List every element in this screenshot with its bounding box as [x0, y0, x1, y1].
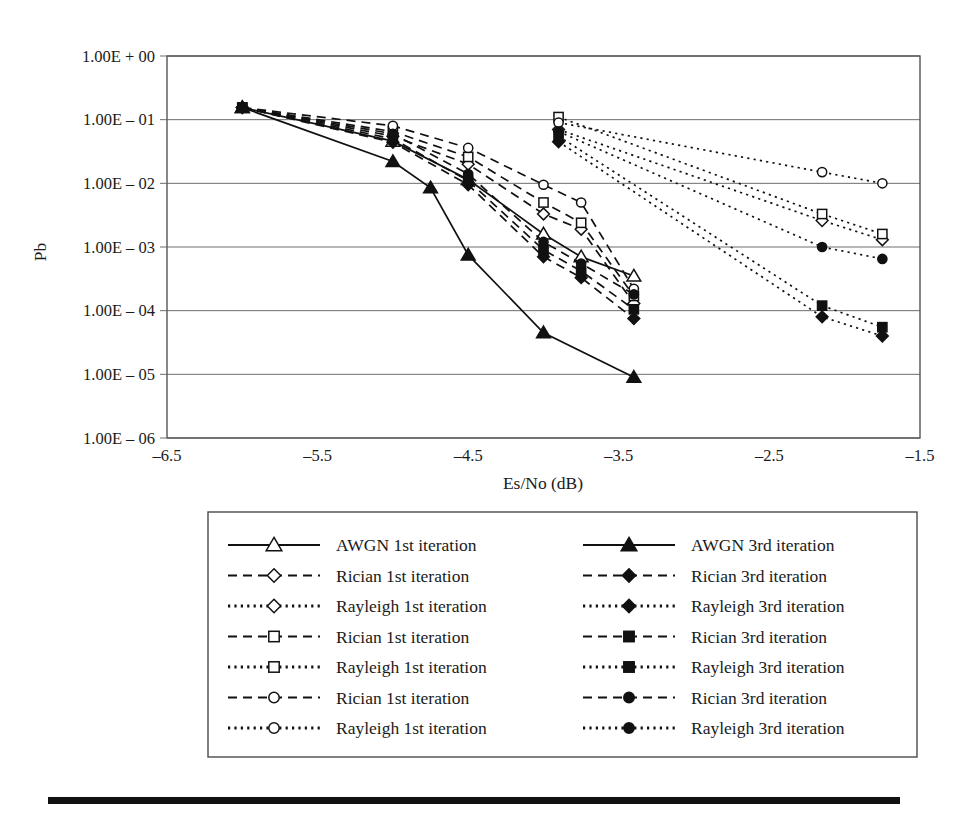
data-series: [235, 101, 640, 281]
legend-label: AWGN 3rd iteration: [691, 535, 835, 555]
legend-label: Rician 1st iteration: [336, 566, 469, 586]
x-tick-label: –3.5: [603, 446, 633, 465]
legend-label: Rician 3rd iteration: [691, 688, 827, 708]
circle-marker: [269, 723, 279, 733]
data-series-layer: [235, 101, 888, 382]
series-line: [242, 108, 634, 276]
square-marker: [629, 305, 638, 314]
square-marker: [624, 631, 634, 641]
y-tick-label: 1.00E – 03: [83, 238, 155, 257]
legend-label: Rayleigh 3rd iteration: [691, 596, 845, 616]
square-marker: [464, 152, 473, 161]
triangle-marker: [461, 248, 475, 260]
circle-marker: [818, 242, 827, 251]
circle-marker: [624, 723, 634, 733]
y-axis-label: Pb: [30, 243, 50, 262]
circle-marker: [554, 118, 563, 127]
series-line: [242, 108, 634, 378]
circle-marker: [629, 290, 638, 299]
circle-marker: [269, 692, 279, 702]
circle-marker: [388, 129, 397, 138]
y-tick-label: 1.00E – 06: [83, 429, 155, 448]
square-marker: [878, 323, 887, 332]
x-tick-label: –4.5: [453, 446, 483, 465]
data-series: [238, 103, 639, 314]
legend-label: Rayleigh 1st iteration: [336, 657, 487, 677]
square-marker: [577, 218, 586, 227]
legend-label: Rayleigh 3rd iteration: [691, 657, 845, 677]
legend-label: Rician 3rd iteration: [691, 627, 827, 647]
x-tick-label: –2.5: [754, 446, 784, 465]
x-tick-label: –1.5: [905, 446, 935, 465]
diamond-marker: [816, 311, 828, 323]
data-series: [235, 101, 640, 382]
series-line: [559, 117, 883, 234]
square-marker: [818, 209, 827, 218]
series-line: [559, 142, 883, 336]
legend-label: Rician 3rd iteration: [691, 566, 827, 586]
circle-marker: [878, 179, 887, 188]
figure-root: 1.00E + 001.00E – 011.00E – 021.00E – 03…: [0, 0, 953, 813]
circle-marker: [577, 198, 586, 207]
y-tick-label: 1.00E – 01: [83, 110, 155, 129]
circle-marker: [878, 254, 887, 263]
square-marker: [878, 229, 887, 238]
x-tick-label: –5.5: [302, 446, 332, 465]
bottom-rule: [48, 797, 900, 804]
square-marker: [539, 198, 548, 207]
circle-marker: [624, 692, 634, 702]
circle-marker: [554, 127, 563, 136]
legend-label: Rician 1st iteration: [336, 688, 469, 708]
y-tick-label: 1.00E – 04: [83, 301, 155, 320]
legend-label: Rayleigh 1st iteration: [336, 718, 487, 738]
x-axis-tick-labels: –6.5–5.5–4.5–3.5–2.5–1.5: [152, 446, 935, 465]
circle-marker: [539, 237, 548, 246]
y-tick-label: 1.00E + 00: [82, 47, 155, 66]
square-marker: [269, 662, 279, 672]
series-line: [559, 130, 883, 240]
circle-marker: [464, 169, 473, 178]
square-marker: [269, 631, 279, 641]
triangle-marker: [627, 371, 641, 383]
circle-marker: [539, 180, 548, 189]
diamond-marker: [538, 208, 550, 220]
triangle-marker: [627, 269, 641, 281]
y-tick-label: 1.00E – 05: [83, 365, 155, 384]
square-marker: [624, 662, 634, 672]
ber-performance-chart: 1.00E + 001.00E – 011.00E – 021.00E – 03…: [0, 0, 953, 813]
square-marker: [818, 301, 827, 310]
legend-label: Rician 1st iteration: [336, 627, 469, 647]
legend-label: Rayleigh 1st iteration: [336, 596, 487, 616]
y-axis-tick-labels: 1.00E + 001.00E – 011.00E – 021.00E – 03…: [82, 47, 167, 448]
circle-marker: [577, 259, 586, 268]
data-series: [554, 132, 887, 332]
circle-marker: [818, 168, 827, 177]
circle-marker: [464, 143, 473, 152]
data-series: [236, 102, 639, 325]
legend-label: Rayleigh 3rd iteration: [691, 718, 845, 738]
y-tick-label: 1.00E – 02: [83, 174, 155, 193]
legend-label: AWGN 1st iteration: [336, 535, 477, 555]
series-line: [242, 108, 634, 310]
circle-marker: [238, 103, 247, 112]
data-series: [553, 124, 889, 246]
x-axis-label: Es/No (dB): [503, 473, 583, 493]
data-series: [554, 118, 887, 188]
x-tick-label: –6.5: [152, 446, 182, 465]
data-series: [554, 127, 887, 264]
